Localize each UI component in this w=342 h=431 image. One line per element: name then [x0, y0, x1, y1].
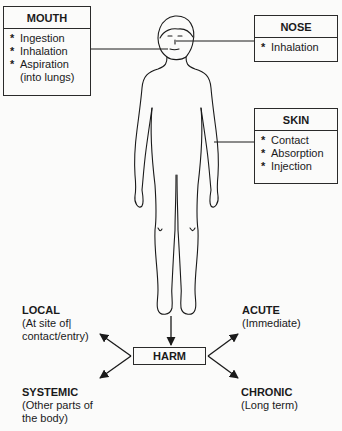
list-item: *Inhalation	[261, 41, 333, 54]
acute-line: (Immediate)	[242, 317, 301, 330]
systemic-effect-label: SYSTEMIC (Other parts of the body)	[22, 386, 93, 425]
list-item: *Aspiration	[10, 58, 86, 71]
list-item: *Ingestion	[10, 32, 86, 45]
acute-title: ACUTE	[242, 304, 301, 317]
arrow-to-acute	[208, 334, 238, 356]
chronic-effect-label: CHRONIC (Long term)	[241, 386, 298, 412]
bullet-icon: *	[261, 41, 271, 54]
nose-route-box: NOSE *Inhalation	[254, 15, 338, 62]
bullet-icon: *	[261, 147, 271, 160]
nose-title: NOSE	[255, 16, 337, 38]
skin-list: *Contact *Absorption *Injection	[255, 131, 337, 177]
chronic-line: (Long term)	[241, 399, 298, 412]
arrow-to-local	[100, 334, 131, 356]
list-item: *Contact	[261, 134, 333, 147]
bullet-icon: *	[261, 134, 271, 147]
list-item: *Absorption	[261, 147, 333, 160]
local-title: LOCAL	[22, 304, 89, 317]
bullet-icon: *	[261, 160, 271, 173]
bullet-icon	[10, 71, 20, 84]
nose-list: *Inhalation	[255, 38, 337, 58]
chronic-title: CHRONIC	[241, 386, 298, 399]
systemic-title: SYSTEMIC	[22, 386, 93, 399]
local-effect-label: LOCAL (At site of| contact/entry)	[22, 304, 89, 343]
bullet-icon: *	[10, 58, 20, 71]
systemic-line: (Other parts of	[22, 399, 93, 412]
local-line: contact/entry)	[22, 330, 89, 343]
human-body-icon	[135, 16, 219, 314]
skin-title: SKIN	[255, 109, 337, 131]
list-item: *Inhalation	[10, 45, 86, 58]
harm-box: HARM	[133, 347, 206, 365]
mouth-list: *Ingestion *Inhalation *Aspiration (into…	[4, 29, 90, 88]
bullet-icon: *	[10, 45, 20, 58]
local-line: (At site of|	[22, 317, 89, 330]
mouth-route-box: MOUTH *Ingestion *Inhalation *Aspiration…	[3, 6, 91, 96]
list-item: (into lungs)	[10, 71, 86, 84]
arrow-to-systemic	[100, 356, 131, 378]
skin-route-box: SKIN *Contact *Absorption *Injection	[254, 108, 338, 184]
bullet-icon: *	[10, 32, 20, 45]
list-item: *Injection	[261, 160, 333, 173]
systemic-line: the body)	[22, 412, 93, 425]
arrow-to-chronic	[208, 356, 238, 378]
mouth-title: MOUTH	[4, 7, 90, 29]
acute-effect-label: ACUTE (Immediate)	[242, 304, 301, 330]
